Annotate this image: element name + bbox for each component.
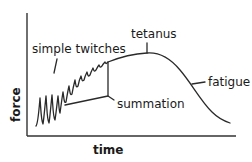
fatigue-pointer: [192, 82, 205, 84]
force-curve: [36, 53, 230, 126]
y-axis-label: force: [9, 87, 23, 122]
tetanus-label: tetanus: [131, 27, 177, 41]
summation-pointer: [108, 96, 114, 100]
fatigue-label: fatigue: [208, 75, 250, 89]
summation-label: summation: [117, 97, 185, 111]
simple-twitches-pointer: [54, 59, 57, 73]
force-time-diagram: simple twitches summation tetanus fatigu…: [0, 0, 252, 162]
summation-bracket: [65, 62, 108, 105]
simple-twitches-label: simple twitches: [32, 42, 126, 56]
x-axis-label: time: [93, 143, 124, 157]
